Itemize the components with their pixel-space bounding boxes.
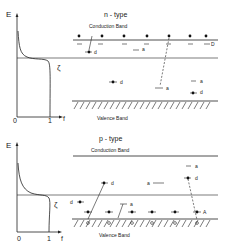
n-fermi-curve xyxy=(18,31,50,117)
p-marker-d-1: d xyxy=(88,180,114,219)
p-fermi-curve xyxy=(18,163,50,232)
p-marker-a-1: a xyxy=(186,163,198,169)
diagram-canvas: E f 0 1 ζ n - type Conduction Band xyxy=(0,0,226,245)
n-conduction-band-label: Conduction Band xyxy=(89,23,128,29)
svg-text:d: d xyxy=(111,180,114,186)
n-type-title: n - type xyxy=(104,11,127,19)
p-x-tick-1: 1 xyxy=(47,235,51,242)
n-marker-d-1: d xyxy=(85,36,97,55)
p-valence-hatch xyxy=(74,220,210,227)
p-y-axis-label: E xyxy=(6,141,11,150)
n-y-axis-label: E xyxy=(6,10,11,19)
svg-text:d: d xyxy=(200,89,203,95)
svg-text:a: a xyxy=(166,85,169,91)
n-type-panel: E f 0 1 ζ n - type Conduction Band xyxy=(6,10,218,124)
p-fermi-plot: E f 0 1 ζ xyxy=(6,141,63,242)
p-x-tick-0: 0 xyxy=(17,235,21,242)
p-marker-a-2: a xyxy=(147,180,164,186)
p-type-panel: E f 0 1 ζ p - type Conduction Band a d a xyxy=(6,135,218,242)
n-x-axis-label: f xyxy=(63,115,65,122)
p-type-title: p - type xyxy=(99,135,122,143)
svg-text:a: a xyxy=(142,46,145,52)
svg-text:d: d xyxy=(94,49,97,55)
p-marker-d-2: d xyxy=(184,175,198,220)
n-y-axis-arrow-icon xyxy=(16,13,19,17)
p-valence-band-label: Valence Band xyxy=(99,232,130,238)
svg-text:d: d xyxy=(120,79,123,85)
n-marker-d-3: d xyxy=(190,89,203,95)
p-fermi-level-label: ζ xyxy=(54,200,58,209)
p-marker-a-3: a xyxy=(118,201,133,218)
svg-text:a: a xyxy=(130,201,133,207)
p-conduction-band-label: Conduction Band xyxy=(91,147,130,153)
p-marker-d-3: d xyxy=(70,199,84,205)
p-acceptor-level-label: A xyxy=(203,209,207,215)
svg-text:d: d xyxy=(195,175,198,181)
n-marker-a-3: a xyxy=(191,78,203,84)
n-marker-d-2: d xyxy=(109,79,123,85)
n-marker-a-2: a xyxy=(155,38,169,91)
p-x-axis-label: f xyxy=(61,235,63,242)
svg-text:a: a xyxy=(147,180,150,186)
semiconductor-band-diagram: E f 0 1 ζ n - type Conduction Band xyxy=(0,0,226,245)
p-acceptor-level xyxy=(84,211,201,214)
n-x-tick-0: 0 xyxy=(13,117,17,124)
n-conduction-electrons xyxy=(78,35,208,38)
n-fermi-level-label: ζ xyxy=(57,63,61,72)
p-y-axis-arrow-icon xyxy=(16,142,19,146)
n-valence-band-label: Valence Band xyxy=(97,115,128,121)
n-fermi-plot: E f 0 1 ζ xyxy=(6,10,65,124)
p-x-axis-arrow-icon xyxy=(58,231,62,234)
n-x-tick-1: 1 xyxy=(48,117,52,124)
svg-text:a: a xyxy=(200,78,203,84)
n-donor-level-label: D xyxy=(211,41,215,47)
n-marker-a-1: a xyxy=(133,46,145,52)
n-valence-hatch xyxy=(74,102,210,109)
svg-text:a: a xyxy=(195,163,198,169)
svg-text:d: d xyxy=(70,199,73,205)
